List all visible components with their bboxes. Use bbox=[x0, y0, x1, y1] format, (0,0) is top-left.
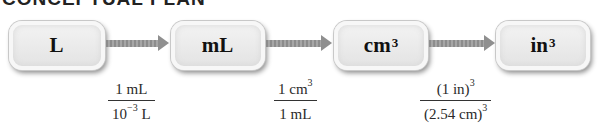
node-cubic-inches: in3 bbox=[496, 21, 590, 70]
conversion-factor-l-to-ml: 1 mL 10−3 L bbox=[108, 79, 155, 123]
numerator: 1 cm bbox=[278, 81, 308, 97]
node-milliliters: mL bbox=[171, 21, 265, 70]
node-exponent: 3 bbox=[549, 35, 556, 51]
arrow-right-icon bbox=[266, 38, 332, 48]
node-cubic-centimeters: cm3 bbox=[334, 21, 428, 70]
section-title: CONCEPTUAL PLAN bbox=[2, 0, 206, 10]
conversion-factor-cm3-to-in3: (1 in)3 (2.54 cm)3 bbox=[420, 79, 491, 123]
arrow-right-icon bbox=[429, 38, 495, 48]
arrow-right-icon bbox=[106, 38, 169, 48]
node-label: L bbox=[49, 33, 63, 58]
node-label: in bbox=[530, 33, 548, 58]
numerator: (1 in) bbox=[437, 81, 470, 97]
node-liters: L bbox=[9, 21, 105, 70]
node-label: cm bbox=[364, 33, 391, 58]
conversion-factor-ml-to-cm3: 1 cm3 1 mL bbox=[274, 79, 317, 123]
node-exponent: 3 bbox=[392, 35, 399, 51]
denominator: 1 mL bbox=[279, 106, 311, 122]
denominator: 10 bbox=[112, 106, 127, 122]
node-label: mL bbox=[202, 33, 234, 58]
numerator: 1 mL bbox=[115, 81, 147, 97]
denominator: (2.54 cm) bbox=[424, 106, 482, 122]
